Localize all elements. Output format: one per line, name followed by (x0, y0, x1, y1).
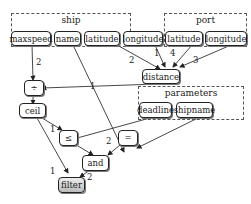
node-distance[interactable]: distance (142, 69, 180, 84)
edge-label-port-lat-distance: 4 (170, 48, 175, 58)
node-ceil[interactable]: ceil (19, 103, 46, 118)
node-maxspeed[interactable]: maxspeed (11, 31, 51, 46)
edge-label-ship-lat-distance: 2 (129, 55, 134, 65)
node-shipname[interactable]: shipname (176, 102, 213, 118)
edge-label-ceil-filter: 1 (50, 166, 55, 176)
group-port-label: port (165, 15, 246, 25)
node-and[interactable]: and (82, 155, 109, 171)
node-filter[interactable]: filter (58, 177, 85, 193)
node-deadline[interactable]: deadline (139, 102, 172, 118)
node-port-latitude[interactable]: latitude (165, 31, 203, 46)
edge-label-distance-divide: 1 (90, 81, 95, 91)
node-port-longitude[interactable]: longitude (205, 31, 247, 46)
edge-label-ship-lon-distance: 1 (154, 48, 159, 58)
node-name[interactable]: name (54, 31, 81, 46)
group-ship-label: ship (12, 15, 130, 25)
edge-label-deadline-leq: 2 (106, 136, 111, 146)
edge-label-ceil-leq: 1 (50, 124, 55, 134)
node-divide[interactable]: ÷ (24, 80, 44, 96)
node-leq[interactable]: ≤ (59, 130, 78, 146)
node-eq[interactable]: = (118, 130, 138, 146)
edge-label-port-lon-distance: 3 (193, 55, 198, 65)
edge-label-maxspeed-divide: 2 (36, 57, 41, 67)
node-ship-longitude[interactable]: longitude (123, 31, 163, 46)
edge-label-and-filter: 2 (87, 172, 92, 182)
group-parameters-label: parameters (139, 88, 243, 98)
node-ship-latitude[interactable]: latitude (84, 31, 120, 46)
